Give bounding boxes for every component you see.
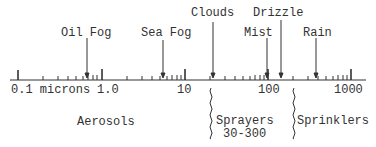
minor-ticks — [43, 75, 347, 80]
marker-label-rain: Rain — [303, 27, 332, 39]
region-label-aerosols: Aerosols — [77, 116, 135, 128]
marker-label-mist: Mist — [244, 27, 273, 39]
marker-label-drizzle: Drizzle — [253, 7, 303, 19]
region-range-sprayers: 30-300 — [223, 128, 266, 140]
tick-label-0-1: 0.1 microns — [11, 84, 90, 96]
droplet-size-diagram: Oil Fog Sea Fog Clouds Mist Drizzle Rain… — [0, 0, 376, 147]
sprayers-divider — [210, 88, 212, 139]
sprinklers-divider — [293, 88, 295, 139]
marker-label-sea-fog: Sea Fog — [141, 27, 191, 39]
tick-label-1: 1.0 — [97, 84, 119, 96]
marker-label-oil-fog: Oil Fog — [61, 27, 111, 39]
region-label-sprinklers: Sprinklers — [297, 115, 369, 127]
tick-label-100: 100 — [258, 84, 280, 96]
region-label-sprayers: Sprayers — [216, 115, 274, 127]
marker-arrows — [85, 20, 318, 78]
tick-label-1000: 1000 — [334, 84, 363, 96]
marker-label-clouds: Clouds — [191, 7, 234, 19]
tick-label-10: 10 — [177, 84, 191, 96]
